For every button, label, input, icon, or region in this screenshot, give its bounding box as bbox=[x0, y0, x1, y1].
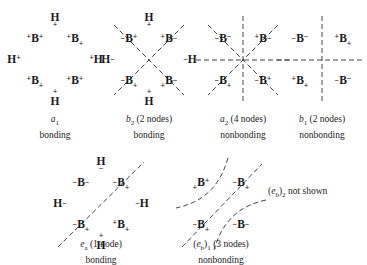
atom-h: H− bbox=[101, 54, 115, 66]
figure-sheet: H+ +B+ +B+ H+ +H +B+ +B+ H+ a1 bonding H… bbox=[0, 0, 367, 265]
atom-b: −B+ bbox=[255, 75, 272, 87]
atom-b: +B+ bbox=[27, 75, 44, 87]
nodal-lines-b1 bbox=[272, 8, 366, 112]
atom-b: −B+ bbox=[73, 219, 90, 231]
atom-b: −B− bbox=[215, 33, 232, 45]
caption-ea: ea (1 node) bonding bbox=[80, 238, 122, 265]
atom-b: +B+ bbox=[67, 75, 84, 87]
atom-b: −B+ bbox=[121, 33, 138, 45]
caption-bonding: bonding bbox=[80, 254, 122, 265]
caption-nodes: (4 nodes) bbox=[231, 114, 267, 124]
orbital-diagram-b1: −B− +B+ +B+ −B− bbox=[272, 8, 366, 112]
atom-b: −B+ bbox=[121, 75, 138, 87]
atom-b: −B+ bbox=[193, 219, 210, 231]
atom-b: −B− bbox=[73, 177, 90, 189]
caption-bonding: nonbonding bbox=[220, 129, 266, 142]
atom-b: −B− bbox=[233, 219, 250, 231]
atom-b: +B+ bbox=[67, 33, 84, 45]
caption-a1: a1 bonding bbox=[39, 113, 70, 142]
atom-b: +B+ bbox=[335, 33, 352, 45]
caption-nodes: (2 nodes) bbox=[310, 114, 346, 124]
atom-h: H− bbox=[53, 198, 67, 210]
caption-bonding: nonbonding bbox=[193, 254, 249, 265]
caption-sub-outer: 1 bbox=[207, 244, 211, 252]
caption-eb1: (eb)1 (3 nodes) nonbonding bbox=[193, 238, 249, 265]
atom-b: −B+ bbox=[113, 177, 130, 189]
atom-b: −B+ bbox=[215, 75, 232, 87]
caption-sub: 1 bbox=[56, 119, 60, 127]
atom-h: H+ bbox=[51, 96, 60, 108]
caption-nodes: (3 nodes) bbox=[213, 239, 249, 249]
atom-h: H+ bbox=[145, 96, 154, 108]
atom-b: +B+ bbox=[113, 219, 130, 231]
atom-h: H− bbox=[97, 156, 106, 168]
caption-bonding: nonbonding bbox=[299, 129, 345, 142]
caption-sub: 2 bbox=[225, 119, 229, 127]
orbital-diagram-b2: H+ −B+ +B− H− −H −B+ +B− H+ bbox=[96, 8, 202, 112]
caption-b2: b2 (2 nodes) bonding bbox=[126, 113, 172, 142]
caption-a2: a2 (4 nodes) nonbonding bbox=[220, 113, 266, 142]
caption-bonding: bonding bbox=[39, 129, 70, 142]
atom-b: +B+ bbox=[292, 75, 309, 87]
atom-b: +B− bbox=[255, 33, 272, 45]
atom-b: −B− bbox=[335, 75, 352, 87]
atom-b: +B+ bbox=[27, 33, 44, 45]
orbital-diagram-a1: H+ +B+ +B+ H+ +H +B+ +B+ H+ bbox=[2, 8, 108, 112]
atom-b: +B− bbox=[161, 33, 178, 45]
atom-b: +B− bbox=[161, 75, 178, 87]
note-text: not shown bbox=[288, 186, 327, 196]
note-sub-2: 2 bbox=[282, 191, 286, 199]
atom-h: H+ bbox=[7, 54, 21, 66]
caption-sub: 1 bbox=[304, 119, 308, 127]
atom-b: +B+ bbox=[193, 177, 210, 189]
atom-h: H+ bbox=[145, 12, 154, 24]
caption-b1: b1 (2 nodes) nonbonding bbox=[299, 113, 345, 142]
note-eb2-not-shown: (eb)2 not shown bbox=[268, 186, 327, 199]
caption-sub: a bbox=[84, 244, 87, 252]
atom-h: H+ bbox=[51, 12, 60, 24]
atom-h: −H bbox=[135, 198, 149, 210]
caption-bonding: bonding bbox=[126, 129, 172, 142]
caption-nodes: (2 nodes) bbox=[137, 114, 173, 124]
atom-b: −B+ bbox=[233, 177, 250, 189]
caption-sub: 2 bbox=[131, 119, 135, 127]
atom-b: −B− bbox=[292, 33, 309, 45]
caption-nodes: (1 node) bbox=[90, 239, 122, 249]
